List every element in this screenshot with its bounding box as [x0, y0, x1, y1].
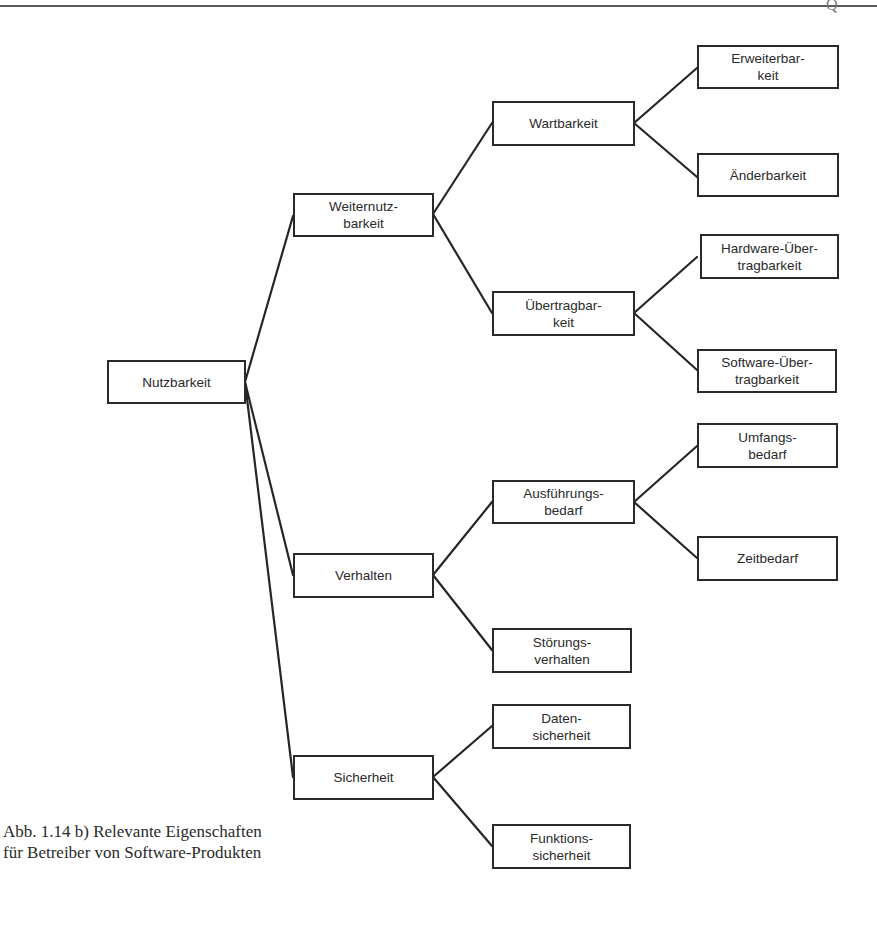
edge-wartbarkeit-aenderbarkeit: [634, 123, 697, 177]
node-verhalten: Verhalten: [293, 553, 434, 598]
node-funktionssicherheit: Funktions- sicherheit: [492, 824, 631, 869]
edge-uebertragbarkeit-software: [634, 313, 697, 370]
edge-weiternutzbarkeit-uebertragbarkeit: [433, 214, 492, 313]
node-wartbarkeit: Wartbarkeit: [492, 101, 635, 146]
node-nutzbarkeit: Nutzbarkeit: [107, 360, 246, 404]
node-stoerungsverhalten: Störungs- verhalten: [492, 628, 632, 673]
edge-verhalten-ausfuehrungsbedarf: [433, 502, 492, 575]
edge-ausfuehrungsbedarf-umfangsbedarf: [634, 446, 697, 502]
edge-nutzbarkeit-weiternutzbarkeit: [245, 216, 293, 382]
edge-ausfuehrungsbedarf-zeitbedarf: [634, 502, 697, 558]
edge-sicherheit-funktionssicherheit: [433, 777, 492, 846]
node-software-uebertragbarkeit: Software-Über- tragbarkeit: [697, 349, 837, 393]
edge-weiternutzbarkeit-wartbarkeit: [433, 123, 492, 214]
node-umfangsbedarf: Umfangs- bedarf: [697, 423, 838, 468]
figure-caption: Abb. 1.14 b) Relevante Eigenschaften für…: [3, 821, 262, 863]
node-zeitbedarf: Zeitbedarf: [697, 536, 838, 581]
node-uebertragbarkeit: Übertragbar- keit: [492, 291, 635, 336]
node-ausfuehrungsbedarf: Ausführungs- bedarf: [492, 480, 635, 524]
edge-sicherheit-datensicherheit: [433, 726, 492, 777]
node-datensicherheit: Daten- sicherheit: [492, 704, 631, 749]
node-erweiterbarkeit: Erweiterbar- keit: [697, 45, 839, 89]
node-weiternutzbarkeit: Weiternutz- barkeit: [293, 193, 434, 237]
edge-verhalten-stoerungsverhalten: [433, 575, 492, 650]
edge-nutzbarkeit-verhalten: [245, 382, 293, 575]
node-sicherheit: Sicherheit: [293, 755, 434, 800]
caption-line-1: Abb. 1.14 b) Relevante Eigenschaften: [3, 821, 262, 842]
caption-line-2: für Betreiber von Software-Produkten: [3, 842, 262, 863]
node-hardware-uebertragbarkeit: Hardware-Über- tragbarkeit: [700, 234, 839, 279]
node-aenderbarkeit: Änderbarkeit: [697, 153, 839, 197]
edge-uebertragbarkeit-hardware: [634, 257, 697, 313]
edge-wartbarkeit-erweiterbarkeit: [634, 68, 697, 123]
edge-nutzbarkeit-sicherheit: [245, 382, 293, 777]
